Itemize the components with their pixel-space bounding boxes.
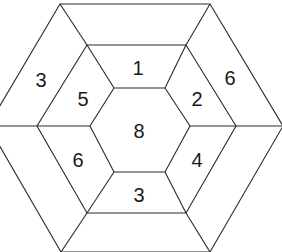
outer-upper-left-label: 3 <box>35 69 46 91</box>
spoke-outer-tr <box>186 4 210 45</box>
hexagon-diagram: 8 1 2 4 3 6 5 3 6 <box>0 0 282 252</box>
spoke-mid-tl <box>87 45 114 88</box>
outer-upper-right-label: 6 <box>224 67 235 89</box>
middle-bottom-label: 3 <box>133 184 144 206</box>
spoke-mid-br <box>165 172 186 213</box>
middle-top-label: 1 <box>132 57 143 79</box>
spoke-outer-tl <box>60 4 87 45</box>
spoke-outer-br <box>186 213 210 252</box>
middle-lower-right-label: 4 <box>191 149 202 171</box>
center-label: 8 <box>133 120 144 142</box>
middle-lower-left-label: 6 <box>72 149 83 171</box>
middle-upper-right-label: 2 <box>191 88 202 110</box>
spoke-outer-bl <box>61 213 87 252</box>
middle-upper-left-label: 5 <box>77 88 88 110</box>
spoke-mid-bl <box>87 172 114 213</box>
spoke-mid-tr <box>165 45 186 88</box>
